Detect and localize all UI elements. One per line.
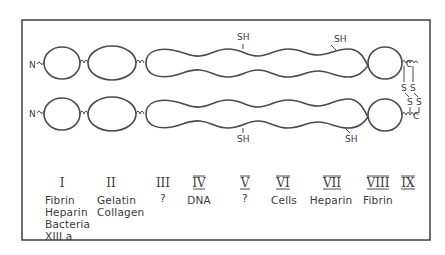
binding-label: DNA — [187, 194, 211, 206]
binding-label: XIII a — [45, 230, 72, 242]
domain-1-top — [44, 47, 80, 79]
domain-numeral: IX — [401, 176, 415, 190]
sulfur-label: S — [416, 97, 422, 107]
domain-3-7-bottom-lower — [146, 114, 368, 128]
sh-label: SH — [334, 34, 346, 44]
binding-label: Cells — [271, 194, 297, 206]
binding-label: Fibrin — [363, 194, 393, 206]
domain-labels: I II III IV V VI VII VIII IX Fibrin Hepa… — [45, 176, 415, 242]
disulfide-bridges: S S S S — [401, 66, 422, 113]
domain-numeral: VIII — [366, 176, 390, 190]
sulfur-label: S — [401, 83, 407, 93]
domain-1-bottom — [44, 98, 80, 130]
domain-numeral: VII — [322, 176, 341, 190]
domain-3-7-top-lower — [146, 63, 368, 77]
binding-label: Fibrin — [45, 194, 75, 206]
binding-label: Bacteria — [45, 218, 90, 230]
sh-label: SH — [345, 134, 357, 144]
binding-label: Heparin — [45, 206, 88, 218]
c-terminus-label: C — [413, 111, 419, 121]
domain-numeral: IV — [192, 176, 206, 190]
binding-label: Collagen — [97, 206, 144, 218]
domain-numeral: II — [106, 176, 116, 190]
domain-2-top — [88, 46, 136, 80]
chain-bottom: N C SH SH — [29, 97, 419, 144]
domain-numeral: V — [240, 176, 250, 190]
domain-8-bottom — [368, 99, 402, 131]
chain-top: N C SH SH — [29, 32, 418, 80]
domain-8-top — [368, 47, 402, 79]
c-terminus-label: C — [406, 59, 412, 69]
domain-3-7-bottom-upper — [146, 99, 368, 117]
binding-label: Gelatin — [97, 194, 136, 206]
n-terminus-label: N — [29, 60, 36, 70]
domain-2-bottom — [88, 97, 136, 131]
binding-label: Heparin — [310, 194, 353, 206]
n-terminus-label: N — [29, 109, 36, 119]
sulfur-label: S — [410, 83, 416, 93]
domain-numeral: VI — [275, 176, 290, 190]
domain-numeral: I — [60, 176, 65, 190]
binding-label: ? — [242, 192, 248, 204]
domain-3-7-top-upper — [146, 49, 368, 66]
sulfur-label: S — [407, 97, 413, 107]
domain-numeral: III — [156, 176, 170, 190]
sh-label: SH — [237, 134, 249, 144]
fibronectin-diagram: N C SH SH S S S S N — [0, 0, 445, 255]
binding-label: ? — [160, 192, 166, 204]
sh-label: SH — [237, 32, 249, 42]
